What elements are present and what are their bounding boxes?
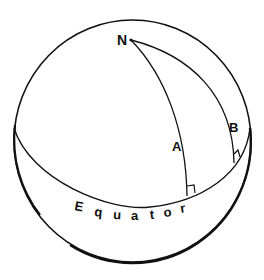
equator-letter-t: t <box>149 207 155 222</box>
right-angle-marker-b <box>234 150 240 157</box>
north-pole-label: N <box>117 32 127 48</box>
equator-letter-q: q <box>94 204 104 220</box>
equator-letter-r: r <box>179 200 187 216</box>
meridian-a-label: A <box>172 139 182 154</box>
north-pole-dot <box>129 38 132 41</box>
equator-letter-e: E <box>73 198 84 214</box>
meridian-a-line <box>131 40 187 196</box>
meridian-b-label: B <box>229 120 238 135</box>
sphere-shadow-arc <box>70 128 251 263</box>
sphere-diagram: N A B E q u a t o r <box>0 0 264 280</box>
equator-letter-u: u <box>113 207 122 222</box>
sphere-svg: N A B E q u a t o r <box>0 0 264 280</box>
right-angle-marker-a <box>187 185 195 193</box>
equator-letter-o: o <box>163 204 173 220</box>
equator-line <box>14 128 250 208</box>
sphere-outline <box>14 20 251 262</box>
equator-letter-a: a <box>131 208 139 223</box>
